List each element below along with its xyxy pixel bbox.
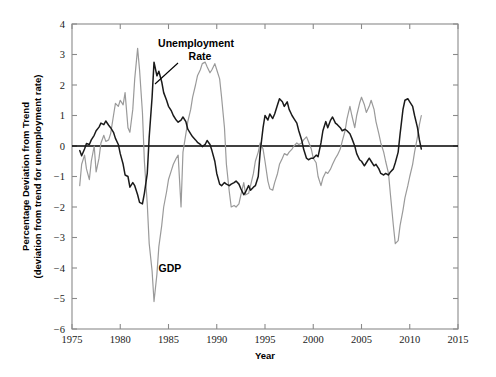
- x-tick-label-1980: 1980: [110, 334, 131, 345]
- x-tick-label-1985: 1985: [158, 334, 179, 345]
- y-axis-title-line2: (deviation from trend for unemployment r…: [32, 75, 43, 279]
- y-tick-label-−1: −1: [54, 171, 65, 182]
- annotation-unemployment-rate-line2: Rate: [189, 50, 212, 62]
- x-tick-label-1995: 1995: [255, 334, 276, 345]
- y-tick-label-3: 3: [60, 49, 65, 60]
- x-tick-label-2005: 2005: [351, 334, 372, 345]
- y-tick-label-4: 4: [60, 19, 66, 30]
- y-tick-label-−4: −4: [54, 263, 66, 274]
- annotation-gdp: GDP: [159, 262, 182, 274]
- x-tick-label-2010: 2010: [399, 334, 420, 345]
- y-tick-label-−2: −2: [54, 202, 65, 213]
- x-tick-label-1975: 1975: [62, 334, 83, 345]
- x-tick-label-2015: 2015: [448, 334, 469, 345]
- y-axis-title-line1: Percentage Deviation from Trend: [20, 102, 31, 251]
- y-tick-label-−3: −3: [54, 232, 65, 243]
- x-axis-tick-labels: 197519801985199019952000200520102015: [62, 334, 469, 345]
- y-tick-label-−5: −5: [54, 293, 65, 304]
- chart-figure: 197519801985199019952000200520102015 −6−…: [0, 0, 496, 377]
- y-tick-label-−6: −6: [54, 324, 65, 335]
- chart-svg: 197519801985199019952000200520102015 −6−…: [0, 0, 496, 377]
- y-tick-label-2: 2: [60, 80, 65, 91]
- y-tick-label-0: 0: [60, 141, 65, 152]
- annotation-unemployment-rate-line1: Unemployment: [158, 37, 234, 49]
- x-axis-title: Year: [255, 350, 275, 361]
- y-tick-label-1: 1: [60, 110, 65, 121]
- x-tick-label-2000: 2000: [303, 334, 324, 345]
- x-tick-label-1990: 1990: [206, 334, 227, 345]
